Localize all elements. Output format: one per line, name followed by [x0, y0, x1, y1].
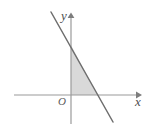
x-axis-label: x [135, 95, 141, 108]
y-axis-label: y [61, 9, 67, 22]
origin-label: O [58, 96, 66, 107]
figure-canvas: y x O [0, 0, 156, 132]
coordinate-plane-graphic [0, 0, 156, 132]
y-axis-arrowhead [68, 13, 75, 19]
